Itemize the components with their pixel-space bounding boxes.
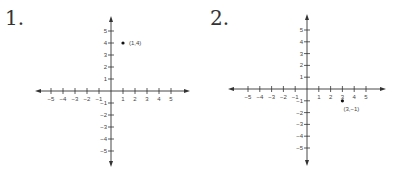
y-tick: 4 <box>300 39 310 45</box>
x-tick: −3 <box>268 86 276 100</box>
y-tick: −1 <box>296 98 310 104</box>
x-tick: 1 <box>317 86 321 100</box>
y-tick: −4 <box>296 133 310 139</box>
arrow-right-icon <box>380 87 386 91</box>
svg-text:2: 2 <box>329 94 333 100</box>
y-tick: 2 <box>300 62 310 68</box>
arrow-left-icon <box>228 87 234 91</box>
arrow-up-icon <box>305 14 309 20</box>
svg-text:−3: −3 <box>268 94 276 100</box>
svg-text:1: 1 <box>317 94 321 100</box>
svg-text:−5: −5 <box>245 94 253 100</box>
svg-text:3: 3 <box>341 94 345 100</box>
svg-text:−4: −4 <box>256 94 264 100</box>
y-tick: −2 <box>296 110 310 116</box>
y-tick: −5 <box>296 145 310 151</box>
x-tick: 4 <box>353 86 357 100</box>
svg-text:−3: −3 <box>296 121 304 127</box>
svg-text:4: 4 <box>353 94 357 100</box>
x-tick: 3 <box>341 86 345 100</box>
svg-text:−1: −1 <box>296 98 304 104</box>
x-tick: 5 <box>364 86 368 100</box>
svg-text:1: 1 <box>300 74 304 80</box>
svg-text:−5: −5 <box>296 145 304 151</box>
svg-text:5: 5 <box>300 27 304 33</box>
svg-text:−2: −2 <box>296 110 304 116</box>
x-tick: −4 <box>256 86 264 100</box>
svg-text:−2: −2 <box>280 94 288 100</box>
data-point <box>341 99 344 102</box>
svg-text:3: 3 <box>300 51 304 57</box>
y-tick: −3 <box>296 121 310 127</box>
svg-text:−4: −4 <box>296 133 304 139</box>
svg-text:2: 2 <box>300 62 304 68</box>
x-tick: −2 <box>280 86 288 100</box>
y-tick: 3 <box>300 51 310 57</box>
coordinate-plane-2: −5−4−3−2−112345−5−4−3−2−112345(3,−1) <box>0 0 398 176</box>
svg-text:(3,−1): (3,−1) <box>343 106 359 112</box>
point-label: (3,−1) <box>343 106 359 112</box>
svg-text:4: 4 <box>300 39 304 45</box>
x-tick: −5 <box>245 86 253 100</box>
y-tick: 5 <box>300 27 310 33</box>
svg-text:5: 5 <box>364 94 368 100</box>
arrow-down-icon <box>305 160 309 166</box>
x-tick: 2 <box>329 86 333 100</box>
y-tick: 1 <box>300 74 310 80</box>
